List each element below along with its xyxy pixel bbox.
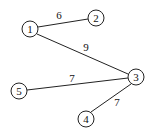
node-label-1: 1	[27, 23, 33, 35]
edge-weight-1-2: 6	[56, 9, 62, 21]
edge-weight-4-3: 7	[114, 96, 120, 108]
edge-weight-1-3: 9	[83, 41, 89, 53]
node-4: 4	[78, 111, 94, 127]
edge-labels: 6 9 7 7	[56, 9, 120, 108]
graph-diagram: 6 9 7 7 1 2 3 4 5	[0, 0, 154, 135]
node-1: 1	[22, 21, 38, 37]
node-2: 2	[88, 10, 104, 26]
edge-1-3	[37, 34, 128, 74]
edge-weight-5-3: 7	[69, 72, 75, 84]
edge-5-3	[27, 78, 128, 90]
edge-4-3	[91, 84, 131, 112]
nodes: 1 2 3 4 5	[11, 10, 144, 127]
node-3: 3	[128, 69, 144, 85]
edge-1-2	[38, 19, 88, 27]
node-label-4: 4	[83, 113, 89, 125]
node-5: 5	[11, 83, 27, 99]
node-label-2: 2	[93, 12, 99, 24]
node-label-3: 3	[133, 71, 139, 83]
node-label-5: 5	[16, 85, 22, 97]
